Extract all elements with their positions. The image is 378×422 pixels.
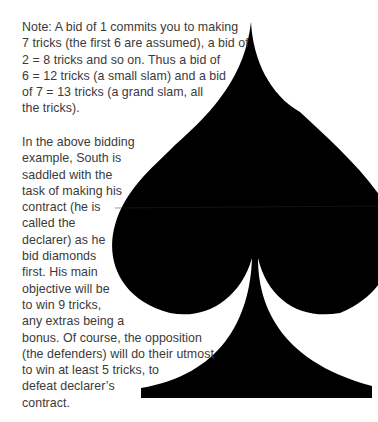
text-line: Note: A bid of 1 commits you to making (22, 19, 249, 35)
text-line: 6 = 12 tricks (a small slam) and a bid (22, 68, 249, 84)
text-line: declarer) as he (22, 232, 214, 248)
text-line: called the (22, 215, 214, 231)
bidding-example-paragraph: In the above bidding example, South is s… (22, 134, 214, 411)
text-line: any extras being a (22, 313, 214, 329)
text-line: (the defenders) will do their utmost (22, 346, 214, 362)
text-line: example, South is (22, 150, 214, 166)
text-line: of 7 = 13 tricks (a grand slam, all (22, 84, 249, 100)
text-line: In the above bidding (22, 134, 214, 150)
text-line: contract (he is (22, 199, 214, 215)
text-line: task of making his (22, 183, 214, 199)
text-line: defeat declarer’s (22, 378, 214, 394)
text-line: objective will be (22, 281, 214, 297)
text-line: contract. (22, 395, 214, 411)
text-line: first. His main (22, 264, 214, 280)
text-line: saddled with the (22, 167, 214, 183)
text-line: to win at least 5 tricks, to (22, 362, 214, 378)
text-line: bid diamonds (22, 248, 214, 264)
text-line: 2 = 8 tricks and so on. Thus a bid of (22, 52, 249, 68)
text-line: 7 tricks (the first 6 are assumed), a bi… (22, 35, 249, 51)
text-line: to win 9 tricks, (22, 297, 214, 313)
text-line: the tricks). (22, 100, 249, 116)
text-line: bonus. Of course, the opposition (22, 330, 214, 346)
note-paragraph: Note: A bid of 1 commits you to making 7… (22, 19, 249, 117)
